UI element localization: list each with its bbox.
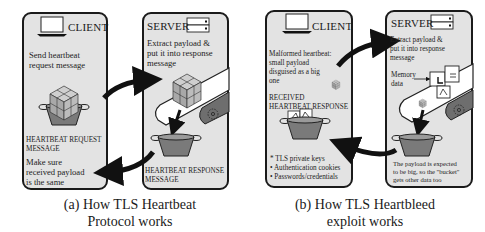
request-label-a-1: HEARTBEAT REQUEST bbox=[26, 136, 102, 145]
client-title-b: CLIENT bbox=[312, 20, 352, 32]
response-label-a-1: HEARTBEAT RESPONSE bbox=[145, 167, 224, 176]
server-step-b-3: message bbox=[390, 54, 414, 63]
leaked-item-2: • Authentication cookies bbox=[270, 164, 340, 173]
note-b-1: The payload is expected bbox=[393, 160, 457, 168]
leaked-item-1: * TLS private keys bbox=[270, 155, 325, 164]
server-step-a-3: message bbox=[147, 58, 176, 68]
bucket-icon bbox=[280, 117, 330, 139]
memory-label-1: Memory bbox=[391, 71, 416, 80]
client-title-a: CLIENT bbox=[68, 21, 108, 33]
note-b-3: gets other data too bbox=[393, 176, 442, 184]
bucket-icon bbox=[392, 134, 442, 156]
server-step-b-2: put it into response bbox=[390, 45, 445, 54]
server-step-a-1: Extract payload & bbox=[147, 38, 210, 48]
request-label-a-2: MESSAGE bbox=[26, 145, 60, 154]
check-a-2: received payload bbox=[26, 167, 84, 177]
client-step-b-3: disguised as a big bbox=[269, 68, 320, 77]
check-a-3: is the same bbox=[26, 177, 64, 187]
caption-b-line1: (b) How TLS Heartbleed bbox=[265, 196, 465, 213]
caption-b: (b) How TLS Heartbleed exploit works bbox=[265, 196, 465, 230]
server-title-b: SERVER bbox=[391, 17, 434, 29]
leaked-item-3: • Passwords/credentials bbox=[270, 173, 338, 182]
caption-b-line2: exploit works bbox=[265, 213, 465, 230]
laptop-icon bbox=[282, 14, 312, 34]
client-step-a-2: request message bbox=[29, 60, 85, 70]
client-step-b-1: Malformed heartbeat: bbox=[269, 50, 331, 59]
server-rack-icon bbox=[187, 18, 209, 32]
bucket-icon bbox=[151, 134, 201, 156]
server-title-a: SERVER bbox=[147, 20, 190, 32]
laptop-icon bbox=[37, 17, 67, 37]
caption-a-line1: (a) How TLS Heartbeat bbox=[30, 196, 230, 213]
client-step-b-4: one bbox=[269, 77, 279, 86]
server-step-b-1: Extract payload & bbox=[390, 36, 443, 45]
response-label-a-2: MESSAGE bbox=[145, 176, 179, 185]
client-step-b-2: small payload bbox=[269, 59, 309, 68]
received-label-b-1: RECEIVED bbox=[269, 94, 305, 103]
received-label-b-2: HEARTBEAT RESPONSE bbox=[269, 103, 348, 112]
caption-a-line2: Protocol works bbox=[30, 213, 230, 230]
small-payload-icon bbox=[332, 80, 340, 90]
server-step-a-2: put it into response bbox=[147, 48, 213, 58]
server-rack-icon bbox=[431, 15, 453, 29]
caption-a: (a) How TLS Heartbeat Protocol works bbox=[30, 196, 230, 230]
check-a-1: Make sure bbox=[26, 157, 62, 167]
client-step-a-1: Send heartbeat bbox=[29, 50, 80, 60]
memory-label-2: data bbox=[391, 80, 403, 89]
note-b-2: to be big, so the "bucket" bbox=[393, 168, 460, 176]
